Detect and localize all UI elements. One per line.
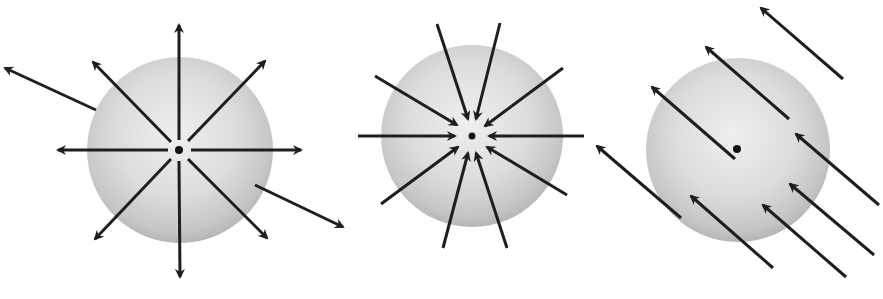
field-line-arrow	[5, 68, 96, 110]
panel-inward	[358, 23, 584, 248]
field-line-arrow	[763, 205, 846, 277]
panel-outward	[5, 25, 343, 277]
point-charge-dot	[469, 133, 476, 140]
field-line-arrow	[790, 184, 874, 255]
field-lines-diagram	[0, 0, 883, 299]
point-charge-dot	[175, 146, 183, 154]
point-charge-dot	[733, 145, 741, 153]
field-line-arrow	[179, 161, 180, 277]
field-line-arrow	[255, 185, 343, 227]
panel-uniform	[597, 8, 879, 277]
